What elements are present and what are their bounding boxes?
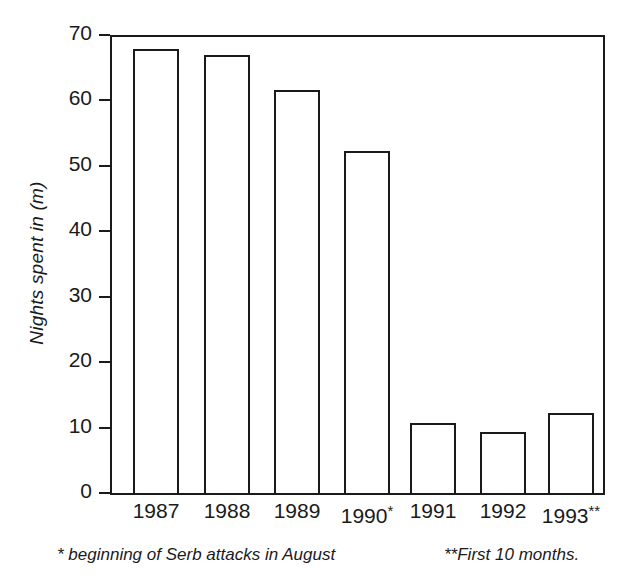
x-tick-label-1993: 1993** (530, 500, 612, 527)
axis-right-spine (603, 35, 605, 494)
x-tick-year: 1989 (274, 499, 321, 522)
y-tick: 30 (99, 296, 110, 298)
y-tick-label: 70 (69, 22, 92, 44)
footnote-single-star: * beginning of Serb attacks in August (57, 545, 335, 565)
bar-1989 (274, 90, 320, 493)
x-tick-year: 1990 (341, 504, 388, 527)
x-tick-year: 1991 (410, 499, 457, 522)
y-tick: 40 (99, 230, 110, 232)
y-tick: 0 (99, 492, 110, 494)
x-tick-year: 1992 (480, 499, 527, 522)
axis-bottom-spine (110, 493, 605, 495)
x-tick-footnote-marker: ** (589, 502, 601, 519)
footnote-double-star: **First 10 months. (444, 545, 579, 565)
x-tick-year: 1987 (133, 499, 180, 522)
bar-1992 (480, 432, 526, 494)
bar-1988 (204, 55, 250, 493)
x-tick-year: 1988 (204, 499, 251, 522)
x-tick-year: 1993 (542, 504, 589, 527)
x-tick-label-1987: 1987 (115, 500, 197, 522)
y-tick-label: 60 (69, 87, 92, 109)
y-axis-title: Nights spent in (m) (26, 148, 48, 378)
axis-left-spine (110, 35, 112, 494)
y-tick: 70 (99, 34, 110, 36)
y-tick-label: 40 (69, 218, 92, 240)
y-tick-label: 0 (80, 480, 92, 502)
y-tick-label: 50 (69, 153, 92, 175)
plot-area: 010203040506070 (110, 35, 603, 493)
y-tick: 60 (99, 99, 110, 101)
y-tick-label: 10 (69, 415, 92, 437)
axis-top-spine (110, 35, 605, 37)
bar-1987 (133, 49, 179, 493)
bar-chart-figure: Nights spent in (m) 010203040506070 1987… (0, 0, 633, 587)
y-tick-label: 30 (69, 284, 92, 306)
y-tick-label: 20 (69, 349, 92, 371)
bar-1990 (344, 151, 390, 493)
bar-1991 (410, 423, 456, 493)
bar-1993 (548, 413, 594, 493)
y-tick: 20 (99, 361, 110, 363)
y-tick: 50 (99, 165, 110, 167)
y-tick: 10 (99, 427, 110, 429)
